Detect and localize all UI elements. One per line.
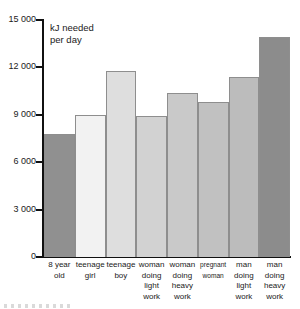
bar xyxy=(198,102,229,257)
x-axis-category-label: man doing heavy work xyxy=(259,260,290,308)
x-axis-category-label: teenage boy xyxy=(106,260,137,308)
bar xyxy=(75,115,106,257)
x-axis-category-label: teenage girl xyxy=(75,260,106,308)
bar xyxy=(167,93,198,257)
plot-area xyxy=(44,20,290,257)
bar-chart-figure: 15 00012 0009 0006 0003 0000 kJ needed p… xyxy=(0,0,300,309)
x-axis-category-label: 8 year old xyxy=(44,260,75,308)
bar xyxy=(44,134,75,257)
y-axis-tick-label: 9 000 xyxy=(0,110,36,119)
bar xyxy=(106,71,137,257)
y-axis-tick-mark xyxy=(36,19,43,21)
bar xyxy=(136,116,167,257)
scan-artifact xyxy=(4,304,74,308)
x-axis-category-label: woman doing heavy work xyxy=(167,260,198,308)
x-axis-category-labels: 8 year oldteenage girlteenage boywoman d… xyxy=(44,260,290,308)
y-axis-tick-mark xyxy=(36,209,43,211)
y-axis-tick-label: 6 000 xyxy=(0,157,36,166)
x-axis-category-label: woman doing light work xyxy=(136,260,167,308)
bar xyxy=(229,77,260,257)
y-axis-tick-mark xyxy=(36,66,43,68)
y-axis-tick-label: 12 000 xyxy=(0,62,36,71)
y-axis-tick-label: 0 xyxy=(0,252,36,261)
y-axis-tick-label: 3 000 xyxy=(0,205,36,214)
y-axis-tick-mark xyxy=(36,114,43,116)
x-axis-category-label: man doing light work xyxy=(229,260,260,308)
y-axis-tick-mark xyxy=(36,256,43,258)
x-axis-category-label: pregnant woman xyxy=(198,260,229,308)
y-axis-tick-mark xyxy=(36,161,43,163)
bar xyxy=(259,37,290,257)
y-axis-tick-label: 15 000 xyxy=(0,15,36,24)
